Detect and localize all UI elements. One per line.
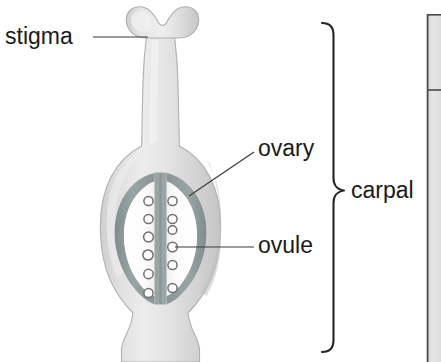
ovule-left-6 xyxy=(144,288,153,297)
carpal-brace-path xyxy=(322,23,344,352)
ovule-right-5 xyxy=(168,260,177,269)
ovule-left-1 xyxy=(144,196,153,205)
septum-center-line xyxy=(159,173,161,304)
ovule-right-2 xyxy=(168,214,177,223)
stigma-group xyxy=(126,7,199,38)
label-ovary: ovary xyxy=(258,135,315,161)
ovule-right-6 xyxy=(168,283,177,292)
label-stigma: stigma xyxy=(5,23,73,49)
side-panel-partial xyxy=(427,14,441,362)
ovule-left-2 xyxy=(144,214,153,223)
ovule-left-3 xyxy=(144,232,154,242)
carpal-diagram: stigma ovary ovule carpal xyxy=(0,0,441,362)
ovule-left-5 xyxy=(144,269,153,278)
ovule-right-1 xyxy=(168,196,177,205)
label-ovule: ovule xyxy=(258,232,313,258)
ovule-right-3 xyxy=(168,226,177,235)
carpal-brace xyxy=(322,23,344,352)
label-carpal: carpal xyxy=(351,177,414,203)
ovule-left-4 xyxy=(143,250,153,260)
side-panel-body xyxy=(427,14,441,362)
figure-canvas: stigma ovary ovule carpal xyxy=(0,0,441,362)
